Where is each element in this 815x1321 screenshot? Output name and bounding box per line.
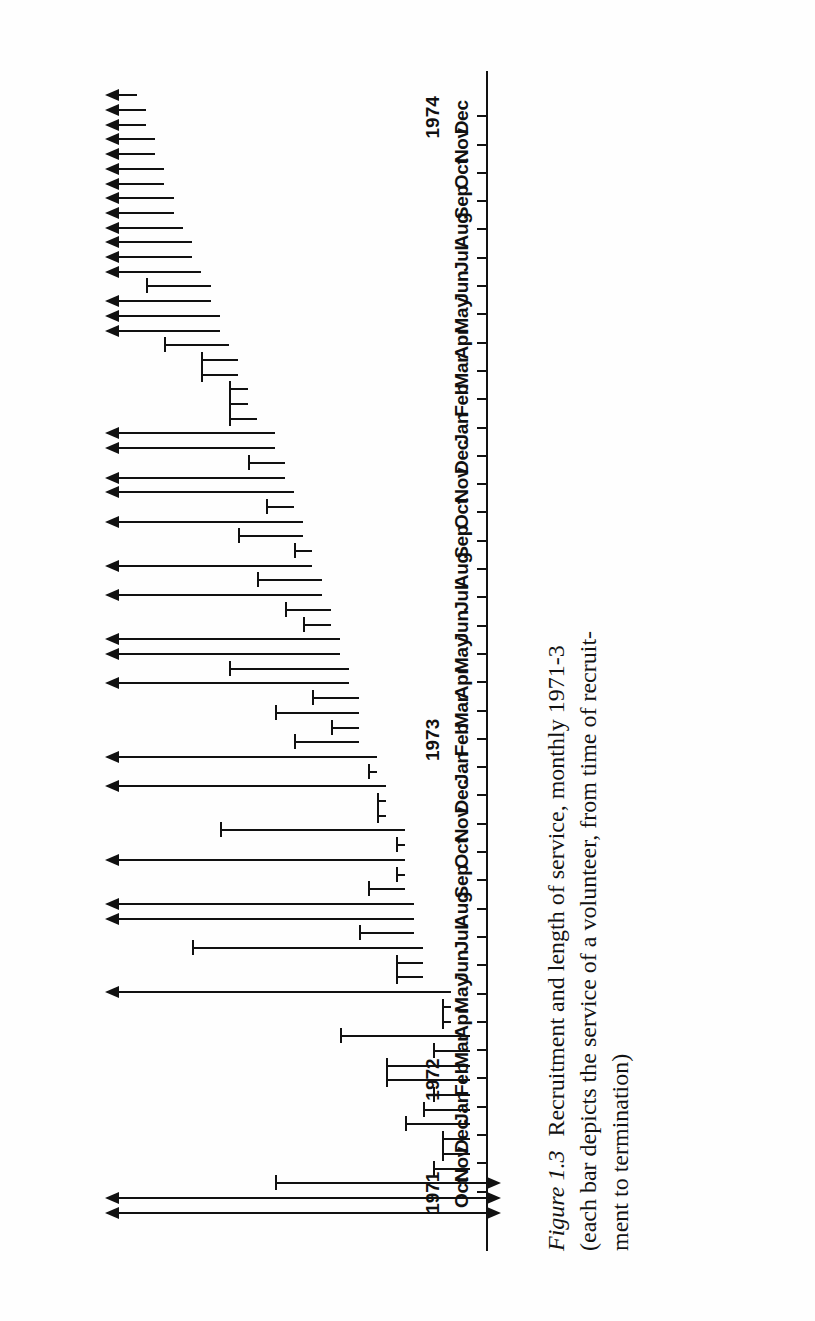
service-bar (118, 153, 155, 155)
termination-cap (229, 381, 231, 396)
censored-arrow-icon (105, 780, 119, 792)
termination-cap (432, 1042, 434, 1057)
service-bar (395, 873, 404, 875)
service-bar (118, 902, 414, 904)
axis-tick (477, 1020, 488, 1022)
service-bar (118, 300, 211, 302)
axis-month-label: Jan (451, 752, 473, 784)
censored-arrow-icon (105, 1191, 119, 1203)
axis-month-label: Mar (451, 355, 473, 388)
censored-arrow-icon (105, 324, 119, 336)
service-bar (293, 741, 358, 743)
censored-arrow-icon (105, 295, 119, 307)
service-bar (118, 197, 174, 199)
service-bar (118, 991, 451, 993)
axis-tick (477, 1049, 488, 1051)
service-bar (201, 358, 238, 360)
service-bar (118, 138, 155, 140)
termination-cap (358, 925, 360, 940)
termination-cap (404, 1116, 406, 1131)
censored-arrow-icon (105, 1206, 119, 1218)
censored-arrow-icon (105, 251, 119, 263)
figure-root: OctNovDecJanFebMarAprMayJunJulAugSepOctN… (0, 0, 815, 1321)
service-bar (229, 388, 248, 390)
axis-tick (477, 256, 488, 258)
axis-tick (477, 709, 488, 711)
termination-cap (229, 396, 231, 411)
service-bar (118, 447, 275, 449)
axis-tick (477, 1190, 488, 1192)
axis-month-label: Sep (451, 185, 473, 219)
censored-arrow-icon (105, 853, 119, 865)
axis-year-label: 1973 (422, 718, 444, 760)
caption-line-2: (each bar depicts the service of a volun… (572, 71, 604, 1251)
termination-cap (145, 278, 147, 293)
axis-month-label: Jun (451, 610, 473, 643)
censored-arrow-icon (105, 148, 119, 160)
chart-plot-area: OctNovDecJanFebMarAprMayJunJulAugSepOctN… (88, 71, 488, 1251)
service-bar (303, 623, 331, 625)
service-bar (164, 344, 229, 346)
service-bar (118, 182, 164, 184)
service-bar (118, 167, 164, 169)
service-bar (118, 785, 386, 787)
service-bar (118, 123, 146, 125)
termination-cap (395, 969, 397, 984)
caption-line-3: ment to termination) (604, 71, 636, 1251)
termination-cap (441, 1131, 443, 1146)
axis-tick (477, 115, 488, 117)
service-bar (441, 1005, 450, 1007)
axis-month-label: Jun (451, 270, 473, 303)
termination-cap (303, 616, 305, 631)
censored-arrow-icon (105, 236, 119, 248)
axis-tick (477, 1162, 488, 1164)
termination-cap (312, 690, 314, 705)
axis-tick (477, 766, 488, 768)
axis-tick (477, 426, 488, 428)
service-bar (395, 961, 423, 963)
service-bar (266, 506, 294, 508)
axis-tick (477, 596, 488, 598)
termination-cap (377, 793, 379, 808)
pre-start-arrow-icon (487, 1206, 501, 1218)
service-bar (201, 373, 238, 375)
axis-tick (477, 539, 488, 541)
service-bar (118, 314, 220, 316)
service-bar (118, 917, 414, 919)
axis-tick (477, 370, 488, 372)
axis-tick (477, 737, 488, 739)
termination-cap (423, 1101, 425, 1116)
axis-tick (477, 568, 488, 570)
axis-month-label: Jun (451, 949, 473, 982)
termination-cap (247, 454, 249, 469)
censored-arrow-icon (105, 221, 119, 233)
axis-month-label: Jul (451, 924, 473, 951)
service-bar (275, 711, 358, 713)
axis-tick (477, 1077, 488, 1079)
censored-arrow-icon (105, 104, 119, 116)
axis-tick (477, 879, 488, 881)
service-bar (118, 211, 174, 213)
termination-cap (395, 837, 397, 852)
service-bar (192, 947, 423, 949)
axis-tick (477, 511, 488, 513)
axis-tick (477, 171, 488, 173)
service-bar (312, 697, 358, 699)
pre-start-arrow-icon (487, 1177, 501, 1189)
termination-cap (266, 499, 268, 514)
service-bar (229, 403, 248, 405)
axis-tick (477, 851, 488, 853)
termination-cap (275, 704, 277, 719)
axis-tick (477, 907, 488, 909)
termination-cap (377, 807, 379, 822)
axis-month-label: Sep (451, 524, 473, 558)
censored-arrow-icon (105, 89, 119, 101)
termination-cap (229, 410, 231, 425)
service-bar (340, 1035, 470, 1037)
axis-tick (477, 1105, 488, 1107)
termination-cap (201, 366, 203, 381)
caption-text-1: Recruitment and length of service, month… (543, 645, 569, 1136)
axis-tick (477, 341, 488, 343)
censored-arrow-icon (105, 648, 119, 660)
service-bar (118, 682, 349, 684)
